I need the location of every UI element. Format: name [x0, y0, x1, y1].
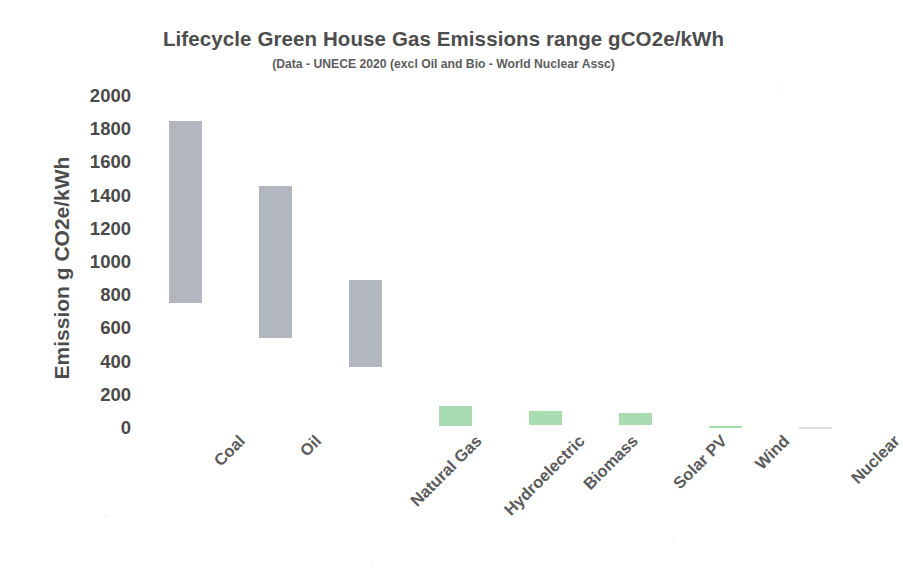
y-axis-tick: 400 — [100, 351, 131, 373]
x-axis-label-natural-gas: Natural Gas — [407, 431, 486, 510]
x-axis-label-oil: Oil — [296, 431, 325, 460]
y-axis-tick: 1400 — [90, 185, 131, 207]
y-axis-tick: 200 — [100, 384, 131, 406]
bar-wind — [709, 426, 742, 429]
bar-biomass — [529, 411, 562, 425]
y-axis-tick: 1000 — [90, 251, 131, 273]
bar-nuclear — [799, 427, 832, 429]
bar-hydroelectric — [439, 406, 472, 426]
x-axis-label-solar-pv: Solar PV — [669, 431, 730, 492]
x-axis-label-coal: Coal — [210, 431, 249, 470]
y-axis-tick: 1200 — [90, 218, 131, 240]
x-axis-labels: CoalOilNatural GasHydroelectricBiomassSo… — [140, 430, 860, 550]
y-axis-tick: 0 — [121, 417, 131, 439]
x-axis-label-wind: Wind — [751, 431, 793, 473]
bar-oil — [259, 186, 292, 339]
x-axis-label-nuclear: Nuclear — [847, 431, 903, 487]
bar-solar-pv — [619, 413, 652, 425]
x-axis-label-biomass: Biomass — [580, 431, 642, 493]
y-axis-tick: 2000 — [90, 85, 131, 107]
chart-title: Lifecycle Green House Gas Emissions rang… — [0, 27, 887, 51]
bar-coal — [169, 121, 202, 304]
y-axis-title: Emission g CO2e/kWh — [50, 118, 74, 418]
y-axis-tick: 600 — [100, 317, 131, 339]
y-axis-tick: 1600 — [90, 151, 131, 173]
y-axis-tick: 1800 — [90, 118, 131, 140]
chart-subtitle: (Data - UNECE 2020 (excl Oil and Bio - W… — [0, 57, 887, 71]
bar-natural-gas — [349, 280, 382, 366]
plot-area: 2000180016001400120010008006004002000 — [140, 96, 860, 428]
y-axis-tick: 800 — [100, 284, 131, 306]
x-axis-label-hydroelectric: Hydroelectric — [500, 431, 588, 519]
